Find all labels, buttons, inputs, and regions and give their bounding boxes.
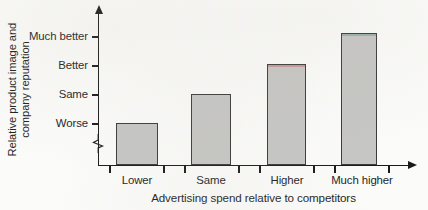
bar-top-edge-tint xyxy=(268,65,305,67)
x-axis-tick xyxy=(163,166,164,173)
y-axis-title: Relative product image and company reput… xyxy=(6,10,31,170)
bar-lower[interactable] xyxy=(116,123,158,165)
x-axis-title: Advertising spend relative to competitor… xyxy=(98,192,409,204)
x-axis-tick xyxy=(313,166,314,173)
y-axis-tick xyxy=(92,36,99,37)
y-axis-break-icon xyxy=(92,134,105,153)
bar-same[interactable] xyxy=(191,94,231,165)
x-axis-tick xyxy=(388,166,389,173)
x-axis-arrow-icon xyxy=(408,161,417,169)
x-axis-line xyxy=(98,165,409,166)
x-axis-tick-label: Lower xyxy=(122,175,153,186)
y-axis-tick xyxy=(92,65,99,66)
bar-higher[interactable] xyxy=(267,64,306,165)
y-axis-tick-label: Much better xyxy=(29,31,88,42)
x-axis-tick xyxy=(334,166,335,173)
x-axis-tick-label: Higher xyxy=(271,175,304,186)
bar-much-higher[interactable] xyxy=(341,33,377,165)
x-axis-tick xyxy=(238,166,239,173)
x-axis-tick-label: Same xyxy=(196,175,225,186)
x-axis-tick xyxy=(109,166,110,173)
bar-top-edge-tint xyxy=(117,124,157,126)
x-axis-tick xyxy=(259,166,260,173)
y-axis-tick xyxy=(92,94,99,95)
x-axis-tick-label: Much higher xyxy=(331,175,393,186)
bar-top-edge-tint xyxy=(342,34,376,36)
y-axis-title-line-1: Relative product image and xyxy=(6,10,19,170)
y-axis-tick-label: Worse xyxy=(56,118,88,129)
y-axis-tick xyxy=(92,123,99,124)
y-axis-arrow-icon xyxy=(95,5,103,14)
y-axis-title-line-2: company reputation xyxy=(19,10,32,170)
bar-top-edge-tint xyxy=(192,95,230,97)
y-axis-tick-label: Better xyxy=(58,60,88,71)
x-axis-tick xyxy=(184,166,185,173)
bar-chart-figure: Much betterBetterSameWorse LowerSameHigh… xyxy=(0,0,428,210)
y-axis-tick-label: Same xyxy=(59,89,88,100)
